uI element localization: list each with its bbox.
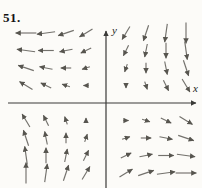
y-axis-label: y — [112, 24, 117, 36]
vector-field-figure: 51. y x — [0, 0, 202, 188]
vector-arrow — [160, 137, 173, 140]
vector-arrow — [120, 169, 133, 177]
vector-arrow — [143, 25, 148, 41]
vector-arrow — [138, 170, 154, 175]
vector-arrow — [37, 32, 55, 35]
vector-arrow — [82, 167, 90, 180]
x-axis-label: x — [193, 82, 198, 94]
vector-arrow — [41, 83, 51, 88]
vector-arrow — [17, 49, 35, 52]
vector-arrow — [22, 114, 30, 127]
vector-arrow — [65, 117, 68, 125]
vector-arrow — [20, 82, 33, 90]
vector-arrow — [182, 79, 190, 92]
vector-arrow — [63, 165, 68, 181]
vector-arrow — [142, 119, 150, 122]
vector-arrow — [43, 115, 48, 125]
vector-arrow — [18, 65, 34, 70]
vector-arrow — [25, 146, 28, 164]
vector-arrow — [180, 117, 193, 125]
vector-arrow — [62, 84, 70, 87]
vector-arrow — [23, 130, 28, 146]
vector-arrow — [183, 60, 188, 76]
vector-arrow — [163, 80, 168, 90]
vector-arrow — [145, 82, 148, 90]
vector-arrow — [165, 62, 168, 75]
vector-arrow — [123, 45, 128, 55]
vector-arrow — [81, 48, 91, 53]
vector-arrow — [45, 132, 48, 145]
vector-arrow — [85, 134, 88, 142]
vector-field-plot — [0, 0, 202, 188]
vector-arrow — [125, 64, 128, 72]
vector-arrow — [40, 67, 53, 70]
vector-arrow — [122, 27, 130, 40]
vector-arrow — [60, 49, 73, 52]
vector-arrow — [122, 137, 130, 140]
vector-arrow — [178, 135, 194, 140]
vector-arrow — [140, 154, 153, 157]
vector-arrow — [157, 172, 175, 175]
vector-arrow — [121, 153, 131, 158]
vector-arrow — [45, 164, 48, 182]
vector-arrow — [58, 30, 74, 35]
vector-arrow — [185, 41, 188, 59]
vector-arrow — [80, 29, 93, 37]
vector-arrow — [161, 118, 171, 123]
vector-arrow — [177, 154, 195, 157]
vector-arrow — [83, 150, 88, 160]
vector-arrow — [165, 24, 168, 42]
vector-arrow — [82, 67, 90, 70]
vector-arrow — [145, 44, 148, 57]
vector-arrow — [65, 149, 68, 162]
